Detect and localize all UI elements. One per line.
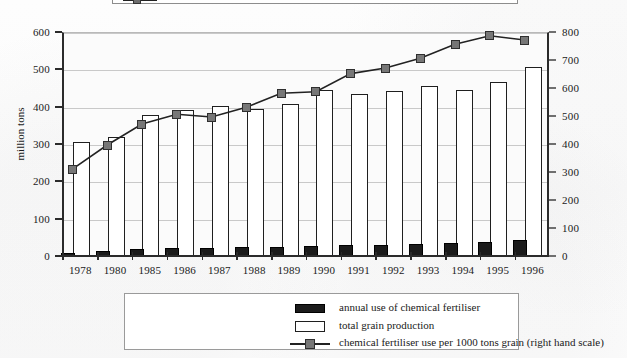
- y-axis-right-tick-mark: [549, 255, 556, 257]
- x-axis-tick-mark: [202, 252, 204, 260]
- y-axis-left-tick-mark: [55, 143, 62, 145]
- gridline: [64, 182, 547, 183]
- y-axis-left-tick-label: 400: [4, 102, 50, 113]
- plot-area: [62, 32, 549, 256]
- gridline: [64, 108, 547, 109]
- bar-total-grain-production: [142, 115, 159, 256]
- y-axis-left-tick-label: 600: [4, 27, 50, 38]
- line-marker: [137, 120, 146, 129]
- y-axis-right-tick-mark: [549, 143, 556, 145]
- y-axis-left-tick-mark: [55, 106, 62, 108]
- x-axis-tick-mark: [445, 252, 447, 260]
- y-axis-left-tick-label: 500: [4, 64, 50, 75]
- x-axis-tick-mark: [515, 252, 517, 260]
- x-axis-tick-mark: [62, 252, 64, 260]
- legend-label-grain: total grain production: [339, 318, 434, 332]
- y-axis-right-tick-mark: [549, 87, 556, 89]
- x-axis-tick-mark: [341, 252, 343, 260]
- bar-total-grain-production: [421, 86, 438, 256]
- bar-total-grain-production: [108, 137, 125, 256]
- y-axis-left-tick-mark: [55, 255, 62, 257]
- y-axis-left-tick-mark: [55, 68, 62, 70]
- x-axis-tick-mark: [271, 252, 273, 260]
- y-axis-right-tick-label: 0: [562, 251, 602, 262]
- bar-total-grain-production: [282, 104, 299, 256]
- line-marker: [346, 69, 355, 78]
- y-axis-right-tick-label: 400: [562, 139, 602, 150]
- line-marker: [68, 165, 77, 174]
- line-marker: [207, 113, 216, 122]
- y-axis-right-tick-mark: [549, 115, 556, 117]
- y-axis-left-tick-label: 100: [4, 214, 50, 225]
- y-axis-right-tick-label: 700: [562, 55, 602, 66]
- clipped-legend-marker-icon: [133, 0, 141, 4]
- line-marker: [416, 54, 425, 63]
- gridline: [64, 220, 547, 221]
- line-marker: [277, 89, 286, 98]
- bar-total-grain-production: [490, 82, 507, 256]
- gridline: [64, 145, 547, 146]
- line-marker: [520, 36, 529, 45]
- line-marker: [311, 87, 320, 96]
- bar-total-grain-production: [386, 91, 403, 256]
- legend-item-grain: total grain production: [125, 318, 518, 334]
- y-axis-right-tick-mark: [549, 227, 556, 229]
- legend-swatch-ratio: [281, 336, 335, 350]
- line-marker: [242, 103, 251, 112]
- legend-swatch-grain: [281, 319, 335, 333]
- y-axis-right-tick-mark: [549, 171, 556, 173]
- y-axis-right-tick-label: 300: [562, 167, 602, 178]
- y-axis-left-tick-mark: [55, 180, 62, 182]
- grey-square-marker-icon: [305, 339, 315, 349]
- bar-total-grain-production: [351, 94, 368, 256]
- line-marker: [451, 40, 460, 49]
- y-axis-right-tick-label: 500: [562, 111, 602, 122]
- legend-item-ratio: chemical fertiliser use per 1000 tons gr…: [125, 335, 518, 351]
- y-axis-left-tick-label: 300: [4, 139, 50, 150]
- x-axis-tick-mark: [410, 252, 412, 260]
- y-axis-left-tick-label: 0: [4, 251, 50, 262]
- y-axis-right-tick-mark: [549, 59, 556, 61]
- x-axis-tick-mark: [132, 252, 134, 260]
- filled-black-square-icon: [295, 304, 325, 313]
- chart-legend: annual use of chemical fertiliser total …: [124, 293, 519, 350]
- clipped-legend-fragment: [112, 0, 518, 4]
- x-axis-tick-mark: [236, 252, 238, 260]
- y-axis-right-tick-mark: [549, 199, 556, 201]
- legend-label-fertiliser: annual use of chemical fertiliser: [339, 300, 480, 314]
- y-axis-left-tick-mark: [55, 31, 62, 33]
- x-axis-tick-mark: [167, 252, 169, 260]
- x-axis-tick-label: 1996: [513, 264, 553, 276]
- line-marker: [381, 64, 390, 73]
- x-axis-tick-mark: [480, 252, 482, 260]
- y-axis-right-tick-mark: [549, 31, 556, 33]
- bar-total-grain-production: [177, 110, 194, 256]
- gridline: [64, 33, 547, 34]
- line-marker: [172, 110, 181, 119]
- bar-total-grain-production: [456, 90, 473, 256]
- bar-total-grain-production: [525, 67, 542, 256]
- x-axis-tick-mark: [306, 252, 308, 260]
- bar-total-grain-production: [316, 90, 333, 257]
- x-axis-tick-mark: [375, 252, 377, 260]
- y-axis-left-tick-label: 200: [4, 176, 50, 187]
- legend-item-fertiliser: annual use of chemical fertiliser: [125, 300, 518, 316]
- y-axis-right-tick-label: 600: [562, 83, 602, 94]
- y-axis-left-tick-mark: [55, 218, 62, 220]
- outlined-white-square-icon: [295, 321, 325, 332]
- line-marker: [103, 141, 112, 150]
- bar-total-grain-production: [212, 106, 229, 256]
- line-marker: [485, 31, 494, 40]
- y-axis-right-tick-label: 800: [562, 27, 602, 38]
- gridline: [64, 70, 547, 71]
- y-axis-right-tick-label: 200: [562, 195, 602, 206]
- bar-total-grain-production: [247, 109, 264, 256]
- y-axis-right-tick-label: 100: [562, 223, 602, 234]
- x-axis-tick-mark: [97, 252, 99, 260]
- legend-swatch-fertiliser: [281, 301, 335, 315]
- legend-label-ratio: chemical fertiliser use per 1000 tons gr…: [339, 335, 604, 349]
- bar-total-grain-production: [73, 142, 90, 256]
